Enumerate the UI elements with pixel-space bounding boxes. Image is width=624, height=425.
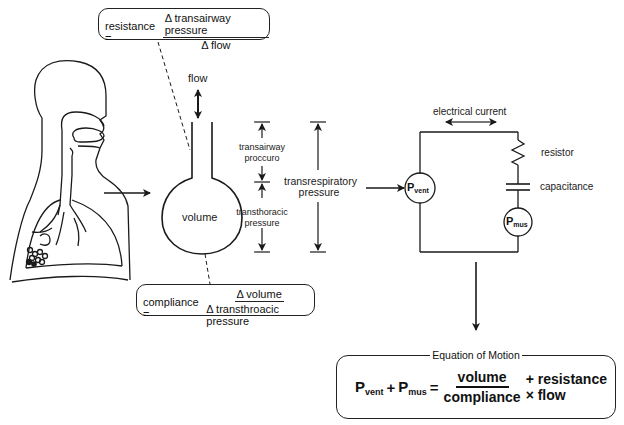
compliance-lhs: compliance = bbox=[143, 296, 201, 320]
transairway-pressure-label: transairway proccuro bbox=[239, 142, 285, 164]
eom-equals: = bbox=[430, 379, 439, 396]
resistance-formula-box: resistance = Δ transairway pressure Δ fl… bbox=[98, 8, 270, 40]
respiratory-anatomy-figure bbox=[10, 61, 130, 282]
eom-pmus-sub: mus bbox=[408, 387, 427, 397]
eom-plus: + bbox=[387, 379, 396, 396]
pmus-sub: mus bbox=[513, 221, 527, 228]
compliance-fraction: Δ volume Δ transthroacic pressure bbox=[204, 288, 314, 327]
lung-balloon-model bbox=[162, 122, 242, 254]
resistance-lhs: resistance = bbox=[105, 20, 160, 44]
eom-pvent-main: P bbox=[355, 378, 365, 395]
eom-resistance-flow-term: + resistance × flow bbox=[526, 371, 615, 403]
eom-pmus-main: P bbox=[398, 378, 408, 395]
transthoracic-label-line1: transthoracic bbox=[236, 207, 288, 218]
pvent-sub: vent bbox=[414, 187, 428, 194]
resistance-numerator: Δ transairway pressure bbox=[163, 12, 269, 38]
transairway-label-line2: proccuro bbox=[239, 153, 285, 164]
transrespiratory-label-line2: pressure bbox=[284, 187, 354, 198]
volume-label: volume bbox=[182, 212, 217, 223]
equation-of-motion-box: Equation of Motion Pvent + Pmus = volume… bbox=[336, 355, 616, 419]
electrical-current-label: electrical current bbox=[433, 106, 506, 117]
transthoracic-label-line2: pressure bbox=[236, 218, 288, 229]
transairway-label-line1: transairway bbox=[239, 142, 285, 153]
eom-pvent: Pvent bbox=[355, 378, 384, 397]
eom-pmus: Pmus bbox=[398, 378, 427, 397]
resistance-fraction: Δ transairway pressure Δ flow bbox=[163, 12, 269, 51]
compliance-denominator: Δ transthroacic pressure bbox=[204, 302, 314, 327]
transrespiratory-pressure-label: transrespiratory pressure bbox=[284, 176, 354, 198]
resistance-denominator: Δ flow bbox=[199, 38, 232, 51]
transthoracic-pressure-label: transthoracic pressure bbox=[236, 207, 288, 229]
compliance-formula-box: compliance = Δ volume Δ transthroacic pr… bbox=[136, 284, 315, 316]
equation-of-motion-title: Equation of Motion bbox=[430, 349, 522, 361]
capacitance-label: capacitance bbox=[540, 181, 593, 192]
eom-denominator: compliance bbox=[442, 388, 523, 405]
pvent-source-label: Pvent bbox=[407, 181, 429, 194]
compliance-numerator: Δ volume bbox=[235, 288, 284, 302]
resistor-label: resistor bbox=[541, 147, 574, 158]
dashed-leader-resistance bbox=[158, 42, 190, 150]
pmus-source-label: Pmus bbox=[506, 215, 528, 228]
equation-of-motion-formula: Pvent + Pmus = volume compliance + resis… bbox=[355, 369, 615, 405]
flow-label: flow bbox=[188, 73, 208, 84]
eom-numerator: volume bbox=[456, 369, 509, 388]
equation-of-motion-title-wrap: Equation of Motion bbox=[337, 349, 615, 361]
eom-fraction: volume compliance bbox=[442, 369, 523, 405]
eom-pvent-sub: vent bbox=[365, 387, 384, 397]
dashed-leader-compliance bbox=[205, 254, 210, 284]
